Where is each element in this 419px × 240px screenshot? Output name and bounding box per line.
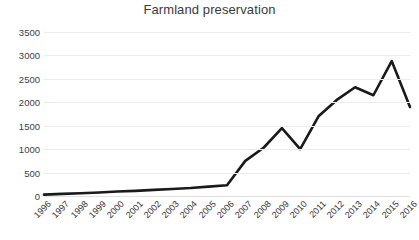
gridline: [44, 102, 410, 103]
y-axis-tick-label: 1500: [0, 120, 40, 131]
gridline: [44, 55, 410, 56]
y-axis-tick-label: 500: [0, 167, 40, 178]
y-axis-labels: 0500100015002000250030003500: [0, 32, 40, 196]
plot-area: [44, 32, 410, 196]
gridline: [44, 79, 410, 80]
gridline: [44, 173, 410, 174]
page-title: Farmland preservation: [0, 2, 419, 17]
line-series: [44, 32, 410, 196]
chart-container: Farmland preservation 050010001500200025…: [0, 0, 419, 240]
y-axis-tick-label: 2500: [0, 73, 40, 84]
y-axis-tick-label: 2000: [0, 97, 40, 108]
x-axis-labels: 1996199719981999200020012002200320042005…: [44, 196, 410, 240]
y-axis-tick-label: 3000: [0, 50, 40, 61]
gridline: [44, 32, 410, 33]
gridline: [44, 149, 410, 150]
y-axis-tick-label: 0: [0, 191, 40, 202]
y-axis-tick-label: 1000: [0, 144, 40, 155]
series-polyline: [44, 61, 410, 195]
y-axis-tick-label: 3500: [0, 27, 40, 38]
gridline: [44, 126, 410, 127]
